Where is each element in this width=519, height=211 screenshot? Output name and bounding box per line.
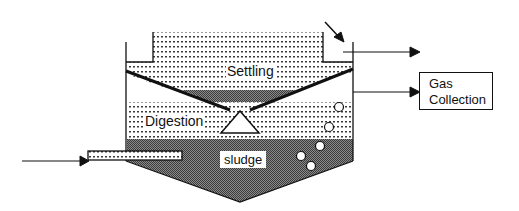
inlet-pipe (88, 151, 182, 160)
gas-collection-box: Gas Collection (419, 72, 493, 110)
gas-collection-line1: Gas (429, 77, 453, 90)
digestion-label: Digestion (144, 114, 204, 128)
effluent-arrow (343, 47, 420, 57)
gas-arrow (353, 87, 420, 97)
diagonal-arrow (325, 22, 344, 42)
influent-arrow (22, 156, 89, 166)
gas-collection-line2: Collection (429, 93, 486, 106)
settling-label: Settling (226, 64, 275, 78)
sludge-label: sludge (220, 151, 266, 168)
